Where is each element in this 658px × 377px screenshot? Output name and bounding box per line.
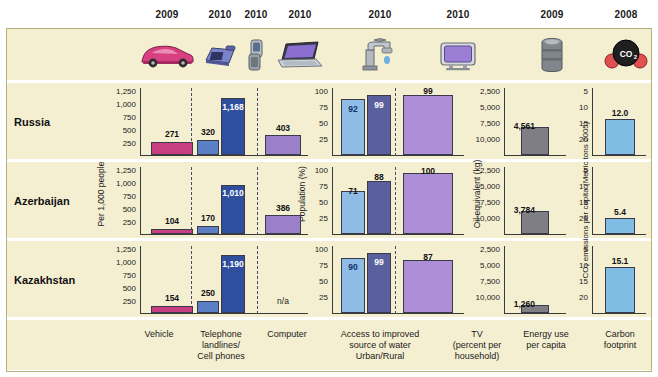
yticks-energy-row2: 2,500 5,000 7,500 10,000: [462, 167, 500, 233]
laptop-icon: [272, 32, 328, 78]
bar-vehicle-kazakhstan: [151, 306, 193, 314]
barvalue-vehicle-azerbaijan: 104: [149, 216, 195, 226]
barvalue-water-urban-russia: 92: [339, 104, 367, 114]
barvalue-water-rural-kazakhstan: 99: [365, 257, 393, 267]
panel-divider: [257, 88, 258, 156]
category-label-energy: Energy useper capita: [496, 329, 596, 351]
barvalue-energy-russia: 4,561: [493, 121, 535, 131]
panel-divider: [257, 246, 258, 314]
yticks-per1000-row2: 1,250 1,000 750 500 250: [104, 167, 136, 233]
bar-computer-russia: [265, 135, 301, 155]
barvalue-energy-kazakhstan: 1,260: [493, 299, 535, 309]
yticks-population-row2: 100 75 50 25: [304, 167, 328, 233]
yticks-per1000-row3: 1,250 1,000 750 500 250: [104, 246, 136, 312]
category-label-vehicle: Vehicle: [126, 329, 192, 340]
plot-per1000-row1: 271 320 1,168 403: [140, 88, 308, 156]
barvalue-landline-russia: 320: [193, 127, 223, 137]
barvalue-tv-kazakhstan: 87: [403, 252, 453, 262]
row-label-kazakhstan: Kazakhstan: [14, 274, 100, 286]
barvalue-tv-azerbaijan: 100: [403, 166, 453, 176]
yticks-population-row1: 100 75 50 25: [304, 88, 328, 154]
panel-divider: [395, 167, 396, 235]
year-water: 2010: [352, 9, 408, 20]
category-label-water: Access to improvedsource of waterUrban/R…: [322, 329, 438, 362]
barvalue-landline-azerbaijan: 170: [193, 213, 223, 223]
barvalue-vehicle-kazakhstan: 154: [149, 293, 195, 303]
bar-landline-russia: [197, 140, 219, 156]
plot-per1000-row3: 154 250 1,190 n/a: [140, 246, 308, 314]
co2-molecule-icon: CO 2: [600, 32, 652, 78]
barvalue-computer-kazakhstan-na: n/a: [265, 296, 301, 306]
row-label-azerbaijan: Azerbaijan: [14, 195, 100, 207]
plot-co2-row1: 12.0: [592, 88, 646, 156]
bar-tv-kazakhstan: [403, 260, 453, 313]
year-vehicle: 2009: [132, 9, 202, 20]
bar-carbon-russia: [605, 119, 635, 155]
barvalue-cellphone-kazakhstan: 1,190: [219, 259, 247, 269]
barvalue-tv-russia: 99: [403, 86, 453, 96]
plot-population-row1: 92 99 99: [332, 88, 464, 156]
plot-population-row3: 90 99 87: [332, 246, 464, 314]
barvalue-water-urban-kazakhstan: 90: [339, 262, 367, 272]
bar-vehicle-russia: [151, 142, 193, 155]
barvalue-carbon-russia: 12.0: [603, 108, 637, 118]
svg-text:CO: CO: [620, 49, 633, 59]
bar-vehicle-azerbaijan: [151, 229, 193, 234]
plot-energy-row2: 3,784: [504, 167, 566, 235]
barvalue-cellphone-azerbaijan: 1,010: [219, 188, 247, 198]
bar-landline-azerbaijan: [197, 226, 219, 234]
plot-co2-row2: 5.4: [592, 167, 646, 235]
barvalue-carbon-azerbaijan: 5.4: [603, 207, 637, 217]
bar-energy-russia: [521, 127, 549, 155]
bar-landline-kazakhstan: [197, 301, 219, 313]
yticks-co2-row3: 5 10 15 20: [570, 246, 588, 312]
barvalue-cellphone-russia: 1,168: [219, 102, 247, 112]
plot-energy-row1: 4,561: [504, 88, 566, 156]
barvalue-computer-russia: 403: [263, 123, 303, 133]
infographic-root: 2009 2010 2010 2010 2010 2010 2009 2008: [0, 0, 658, 377]
category-label-computer: Computer: [254, 329, 320, 340]
yticks-co2-row1: 5 10 15 20: [570, 88, 588, 154]
plot-co2-row3: 15.1: [592, 246, 646, 314]
car-icon: [132, 32, 202, 78]
panel-divider: [191, 246, 192, 314]
bar-tv-russia: [403, 95, 453, 155]
television-icon: [430, 32, 486, 78]
year-energy: 2009: [524, 9, 580, 20]
panel-divider: [395, 246, 396, 314]
barvalue-computer-azerbaijan: 386: [263, 203, 303, 213]
barvalue-carbon-kazakhstan: 15.1: [603, 256, 637, 266]
panel-divider: [395, 88, 396, 156]
row-label-russia: Russia: [14, 116, 100, 128]
yticks-co2-row2: 5 10 15 20: [570, 167, 588, 233]
barvalue-vehicle-russia: 271: [149, 129, 195, 139]
category-label-telephone: Telephonelandlines/Cell phones: [190, 329, 252, 362]
yticks-per1000-row1: 1,250 1,000 750 500 250: [104, 88, 136, 154]
bar-water-rural-azerbaijan: [367, 181, 391, 234]
barvalue-water-rural-russia: 99: [365, 100, 393, 110]
plot-population-row2: 71 88 100: [332, 167, 464, 235]
bar-carbon-azerbaijan: [605, 218, 635, 234]
barvalue-water-urban-azerbaijan: 71: [339, 186, 367, 196]
year-carbon: 2008: [600, 9, 652, 20]
faucet-icon: [352, 32, 408, 78]
year-computer: 2010: [272, 9, 328, 20]
bar-carbon-kazakhstan: [605, 267, 635, 313]
oil-barrel-icon: [524, 32, 580, 78]
yticks-population-row3: 100 75 50 25: [304, 246, 328, 312]
panel-divider: [257, 167, 258, 235]
plot-energy-row3: 1,260: [504, 246, 566, 314]
barvalue-landline-kazakhstan: 250: [193, 288, 223, 298]
year-tv: 2010: [430, 9, 486, 20]
category-label-carbon: Carbonfootprint: [592, 329, 648, 351]
bar-tv-azerbaijan: [403, 173, 453, 234]
bar-water-urban-azerbaijan: [341, 191, 365, 234]
plot-per1000-row2: 104 170 1,010 386: [140, 167, 308, 235]
barvalue-energy-azerbaijan: 3,784: [493, 205, 535, 215]
barvalue-water-rural-azerbaijan: 88: [365, 172, 393, 182]
bar-computer-azerbaijan: [265, 215, 301, 234]
